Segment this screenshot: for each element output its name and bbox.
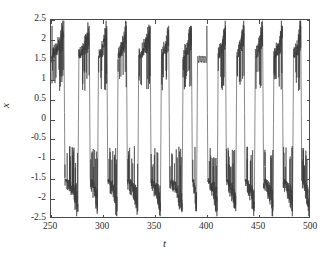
x-tick-label: 400 bbox=[184, 222, 228, 232]
y-tick-mark bbox=[51, 179, 55, 180]
y-tick-mark bbox=[307, 100, 310, 101]
x-tick-mark bbox=[259, 215, 260, 218]
x-tick-mark bbox=[103, 20, 104, 24]
y-tick-mark bbox=[51, 199, 55, 200]
y-tick-mark bbox=[307, 40, 310, 41]
x-tick-mark bbox=[51, 20, 52, 24]
y-tick-label: 0.5 bbox=[2, 94, 46, 104]
y-tick-label: 0 bbox=[2, 114, 46, 124]
plot-area bbox=[50, 19, 310, 218]
y-tick-mark bbox=[307, 139, 310, 140]
x-tick-mark bbox=[103, 215, 104, 218]
y-axis-tick-labels: -2.5-2-1.5-1-0.500.511.522.5 bbox=[0, 19, 46, 218]
x-axis-tick-labels: 250300350400450500 bbox=[50, 222, 310, 236]
chart-figure: x -2.5-2-1.5-1-0.500.511.522.5 250300350… bbox=[0, 0, 329, 260]
y-tick-label: 1.5 bbox=[2, 54, 46, 64]
x-tick-mark bbox=[155, 215, 156, 218]
y-tick-mark bbox=[307, 60, 310, 61]
y-tick-mark bbox=[307, 199, 310, 200]
x-tick-mark bbox=[207, 215, 208, 218]
y-tick-label: -0.5 bbox=[2, 134, 46, 144]
x-tick-mark bbox=[51, 215, 52, 218]
x-axis-label: t bbox=[0, 237, 329, 249]
series-path bbox=[51, 21, 309, 216]
x-tick-label: 500 bbox=[288, 222, 329, 232]
time-series-line bbox=[51, 20, 309, 217]
y-tick-label: -1.5 bbox=[2, 173, 46, 183]
y-tick-label: -2 bbox=[2, 193, 46, 203]
y-tick-mark bbox=[51, 139, 55, 140]
x-tick-label: 250 bbox=[28, 222, 72, 232]
x-tick-label: 450 bbox=[236, 222, 280, 232]
y-tick-mark bbox=[51, 60, 55, 61]
x-tick-label: 300 bbox=[80, 222, 124, 232]
x-tick-mark bbox=[259, 20, 260, 24]
y-tick-mark bbox=[51, 80, 55, 81]
y-tick-label: -1 bbox=[2, 154, 46, 164]
y-tick-mark bbox=[51, 120, 55, 121]
y-tick-label: 2.5 bbox=[2, 14, 46, 24]
y-tick-mark bbox=[307, 179, 310, 180]
y-tick-mark bbox=[51, 100, 55, 101]
y-tick-mark bbox=[307, 120, 310, 121]
y-tick-label: 2 bbox=[2, 34, 46, 44]
y-tick-label: 1 bbox=[2, 74, 46, 84]
x-tick-mark bbox=[155, 20, 156, 24]
x-tick-label: 350 bbox=[132, 222, 176, 232]
x-tick-mark bbox=[207, 20, 208, 24]
y-tick-mark bbox=[307, 159, 310, 160]
y-tick-mark bbox=[307, 80, 310, 81]
y-tick-mark bbox=[51, 159, 55, 160]
y-tick-mark bbox=[307, 20, 310, 21]
y-tick-mark bbox=[51, 40, 55, 41]
